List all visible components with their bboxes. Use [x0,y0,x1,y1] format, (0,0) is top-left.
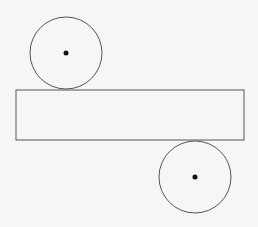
bottom-center-dot [193,175,198,180]
top-center-dot [64,51,69,56]
cylinder-net-diagram [0,0,258,227]
lateral-surface-rectangle [16,90,244,140]
